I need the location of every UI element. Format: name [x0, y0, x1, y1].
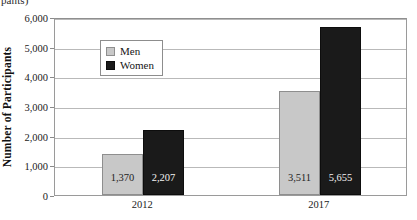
y-axis-tick-label: 5,000 [24, 42, 48, 53]
y-axis-tick-label: 2,000 [24, 131, 48, 142]
bar-2017-men[interactable]: 3,511 [279, 91, 320, 195]
legend-swatch-icon [106, 47, 115, 56]
bar-2012-women[interactable]: 2,207 [143, 130, 184, 195]
y-axis-tick-mark [50, 77, 54, 78]
bar-2012-men[interactable]: 1,370 [102, 154, 143, 195]
y-axis-tick-label: 4,000 [24, 72, 48, 83]
legend-item-men[interactable]: Men [106, 44, 154, 58]
bar-value-label: 2,207 [144, 172, 183, 184]
bar-value-label: 5,655 [321, 172, 360, 184]
gridline [55, 19, 406, 20]
y-axis-tick-mark [50, 107, 54, 108]
legend-swatch-icon [106, 61, 115, 70]
bar-chart-figure: Number of Participants 01,0002,0003,0004… [0, 0, 417, 220]
x-axis-tick-label-2012: 2012 [132, 199, 153, 211]
y-axis-tick-label: 1,000 [24, 161, 48, 172]
y-axis-tick-mark [50, 196, 54, 197]
y-axis-tick-mark [50, 137, 54, 138]
bar-2017-women[interactable]: 5,655 [320, 27, 361, 195]
legend-item-label: Women [120, 59, 154, 71]
x-axis-tick-labels: 20122017 [54, 199, 407, 217]
legend-item-women[interactable]: Women [106, 58, 154, 72]
bar-value-label: 1,370 [103, 172, 142, 184]
y-axis-tick-labels: 01,0002,0003,0004,0005,0006,000 [14, 18, 52, 196]
y-axis-tick-mark [50, 18, 54, 19]
y-axis-tick-label: 3,000 [24, 102, 48, 113]
y-axis-tick-mark [50, 166, 54, 167]
y-axis-tick-mark [50, 48, 54, 49]
y-axis-tick-label: 0 [43, 191, 48, 202]
bar-value-label: 3,511 [280, 172, 319, 184]
y-axis-tick-label: 6,000 [24, 13, 48, 24]
x-axis-tick-label-2017: 2017 [308, 199, 329, 211]
y-axis-title: Number of Participants [0, 18, 14, 196]
chart-legend: MenWomen [100, 40, 163, 76]
legend-item-label: Men [120, 45, 140, 57]
y-axis-title-label: Number of Participants [1, 47, 13, 167]
